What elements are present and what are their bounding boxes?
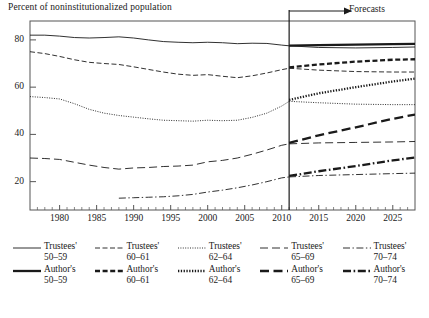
legend-label-line2: 60–61 — [126, 252, 159, 263]
legend-line-swatch-icon — [343, 241, 371, 255]
legend-label-line1: Trustees' — [44, 241, 77, 252]
legend-row-authors: Author's50–59Author's60–61Author's62–64A… — [13, 264, 425, 285]
x-tick-label: 2025 — [373, 213, 413, 223]
legend-label-line1: Trustees' — [126, 241, 159, 252]
series-line — [289, 79, 415, 100]
legend-line-swatch-icon — [260, 264, 288, 278]
legend-label-line2: 65–69 — [291, 252, 324, 263]
legend-item[interactable]: Trustees'60–61 — [95, 241, 177, 262]
legend-label-line2: 50–59 — [44, 252, 77, 263]
x-tick-label: 2005 — [225, 213, 265, 223]
legend-line-swatch-icon — [178, 241, 206, 255]
legend-label-line2: 50–59 — [44, 275, 76, 286]
legend-item[interactable]: Author's60–61 — [95, 264, 177, 285]
legend-item-label: Author's62–64 — [209, 264, 241, 285]
legend-item[interactable]: Trustees'65–69 — [260, 241, 342, 262]
legend-line-swatch-icon — [343, 264, 371, 278]
series-line — [30, 97, 289, 122]
legend-item[interactable]: Author's50–59 — [13, 264, 95, 285]
legend-item[interactable]: Trustees'70–74 — [343, 241, 425, 262]
legend-item[interactable]: Trustees'50–59 — [13, 241, 95, 262]
legend-label-line1: Author's — [44, 264, 76, 275]
legend-label-line2: 70–74 — [374, 252, 407, 263]
legend-label-line1: Author's — [374, 264, 406, 275]
legend-label-line2: 65–69 — [291, 275, 323, 286]
chart-legend: Trustees'50–59Trustees'60–61Trustees'62–… — [13, 241, 425, 287]
legend-item-label: Trustees'65–69 — [291, 241, 324, 262]
x-tick-label: 2020 — [336, 213, 376, 223]
x-tick-label: 2000 — [188, 213, 228, 223]
legend-item[interactable]: Author's65–69 — [260, 264, 342, 285]
x-tick-label: 1980 — [40, 213, 80, 223]
x-tick-label: 1995 — [151, 213, 191, 223]
legend-label-line1: Author's — [126, 264, 158, 275]
legend-item-label: Author's60–61 — [126, 264, 158, 285]
legend-label-line2: 70–74 — [374, 275, 406, 286]
forecast-arrow-head — [344, 8, 352, 15]
legend-item-label: Trustees'60–61 — [126, 241, 159, 262]
series-line — [289, 68, 415, 72]
series-line — [30, 35, 289, 46]
legend-item[interactable]: Author's70–74 — [343, 264, 425, 285]
legend-row-trustees: Trustees'50–59Trustees'60–61Trustees'62–… — [13, 241, 425, 262]
series-line — [289, 115, 415, 143]
legend-label-line2: 60–61 — [126, 275, 158, 286]
legend-label-line2: 62–64 — [209, 252, 242, 263]
legend-label-line1: Trustees' — [374, 241, 407, 252]
series-line — [289, 44, 415, 46]
legend-item-label: Author's65–69 — [291, 264, 323, 285]
legend-item-label: Trustees'70–74 — [374, 241, 407, 262]
x-tick-label: 1990 — [114, 213, 154, 223]
x-tick-label: 2015 — [299, 213, 339, 223]
series-line — [30, 52, 289, 78]
legend-item-label: Trustees'62–64 — [209, 241, 242, 262]
legend-label-line1: Trustees' — [291, 241, 324, 252]
chart-figure: Percent of noninstitutionalized populati… — [0, 0, 429, 318]
legend-line-swatch-icon — [95, 264, 123, 278]
series-line — [289, 59, 415, 67]
legend-line-swatch-icon — [13, 264, 41, 278]
legend-item-label: Author's70–74 — [374, 264, 406, 285]
plot-frame — [30, 21, 415, 210]
legend-item[interactable]: Author's62–64 — [178, 264, 260, 285]
legend-item-label: Trustees'50–59 — [44, 241, 77, 262]
legend-line-swatch-icon — [178, 264, 206, 278]
y-tick-label: 80 — [6, 34, 24, 44]
legend-label-line1: Author's — [291, 264, 323, 275]
series-line — [30, 144, 289, 169]
y-tick-label: 60 — [6, 81, 24, 91]
legend-item-label: Author's50–59 — [44, 264, 76, 285]
legend-line-swatch-icon — [95, 241, 123, 255]
y-tick-label: 20 — [6, 176, 24, 186]
y-tick-label: 40 — [6, 128, 24, 138]
legend-label-line1: Trustees' — [209, 241, 242, 252]
series-line — [289, 141, 415, 143]
series-line — [289, 101, 415, 104]
legend-label-line2: 62–64 — [209, 275, 241, 286]
legend-label-line1: Author's — [209, 264, 241, 275]
legend-item[interactable]: Trustees'62–64 — [178, 241, 260, 262]
legend-line-swatch-icon — [260, 241, 288, 255]
legend-line-swatch-icon — [13, 241, 41, 255]
series-line — [119, 177, 289, 198]
series-line — [289, 158, 415, 176]
x-tick-label: 2010 — [262, 213, 302, 223]
x-tick-label: 1985 — [77, 213, 117, 223]
